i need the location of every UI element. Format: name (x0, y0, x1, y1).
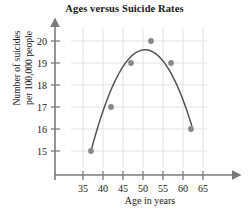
y-tick-label: 19 (37, 58, 47, 69)
chart-plot-area: 151617181920 35404550556065 (0, 0, 249, 215)
x-axis-label: Age in years (60, 195, 240, 206)
data-point (148, 38, 154, 44)
x-tick-label: 40 (98, 183, 108, 194)
y-axis-label: Number of suicides per 100,000 people (11, 0, 35, 138)
data-points (88, 38, 194, 154)
chart-container: Ages versus Suicide Rates 151617181920 3… (0, 0, 249, 215)
x-tick-label: 65 (198, 183, 208, 194)
x-tick-label: 45 (118, 183, 128, 194)
y-tick-label: 16 (37, 124, 47, 135)
x-tick-label: 60 (178, 183, 188, 194)
x-tick-label: 50 (138, 183, 148, 194)
y-axis-label-line1: Number of suicides (11, 0, 23, 138)
y-axis-label-line2: per 100,000 people (23, 0, 35, 138)
y-tick-label: 20 (37, 36, 47, 47)
data-point (128, 60, 134, 66)
data-point (108, 104, 114, 110)
y-tick-label: 18 (37, 80, 47, 91)
data-point (188, 126, 194, 132)
fit-curve (91, 50, 192, 151)
x-tick-label: 35 (78, 183, 88, 194)
y-axis-ticks: 151617181920 (37, 36, 60, 157)
data-point (168, 60, 174, 66)
data-point (88, 148, 94, 154)
x-tick-label: 55 (158, 183, 168, 194)
y-tick-label: 15 (37, 146, 47, 157)
y-tick-label: 17 (37, 102, 47, 113)
